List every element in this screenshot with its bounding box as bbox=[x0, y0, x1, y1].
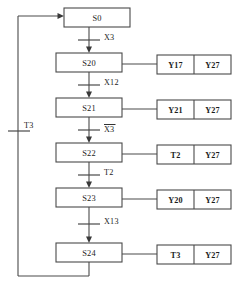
action-cell-s22-2: Y27 bbox=[205, 151, 220, 160]
action-cell-s23-1: Y20 bbox=[168, 196, 183, 205]
action-block-s24[interactable]: T3 Y27 bbox=[157, 245, 231, 264]
action-cell-s22-1: T2 bbox=[171, 151, 181, 160]
transition-label-t2: T2 bbox=[104, 168, 114, 177]
state-label-s24: S24 bbox=[82, 249, 96, 258]
transition-label-return: T3 bbox=[24, 121, 34, 130]
action-block-s21[interactable]: Y21 Y27 bbox=[157, 100, 231, 119]
action-cell-s24-2: Y27 bbox=[205, 251, 220, 260]
state-label-s23: S23 bbox=[82, 194, 96, 203]
state-label-s21: S21 bbox=[82, 104, 96, 113]
transition-label-x13: X13 bbox=[104, 217, 119, 226]
action-cell-s24-1: T3 bbox=[171, 251, 181, 260]
state-box-s0[interactable]: S0 bbox=[64, 8, 130, 27]
arrowhead-s24 bbox=[86, 237, 92, 244]
transition-label-1: X3 bbox=[104, 33, 114, 42]
transition-label-not-x3: X3 bbox=[104, 125, 114, 134]
arrowhead-s20 bbox=[86, 47, 92, 54]
transition-label-x3: X3 bbox=[104, 33, 114, 42]
return-arrowhead bbox=[58, 13, 65, 19]
arrowhead-s21 bbox=[86, 92, 92, 99]
state-box-s24[interactable]: S24 bbox=[56, 243, 122, 262]
transition-label-4: T2 bbox=[104, 168, 114, 177]
arrowhead-s22 bbox=[86, 137, 92, 144]
action-cell-s20-2: Y27 bbox=[205, 61, 220, 70]
action-cell-s21-1: Y21 bbox=[168, 106, 183, 115]
action-block-s23[interactable]: Y20 Y27 bbox=[157, 190, 231, 209]
transition-label-5: X13 bbox=[104, 217, 119, 226]
action-cell-s20-1: Y17 bbox=[168, 61, 183, 70]
sfc-diagram: S0 S20 S21 S22 S23 S24 Y17 Y27 bbox=[0, 0, 237, 287]
state-label-s20: S20 bbox=[82, 59, 96, 68]
action-connectors bbox=[122, 64, 157, 254]
action-block-s22[interactable]: T2 Y27 bbox=[157, 145, 231, 164]
arrowhead-s23 bbox=[86, 182, 92, 189]
state-label-s22: S22 bbox=[82, 149, 96, 158]
state-box-s23[interactable]: S23 bbox=[56, 188, 122, 207]
sfc-canvas: S0 S20 S21 S22 S23 S24 Y17 Y27 bbox=[0, 0, 237, 287]
action-cell-s21-2: Y27 bbox=[205, 106, 220, 115]
state-box-s22[interactable]: S22 bbox=[56, 143, 122, 162]
state-box-s21[interactable]: S21 bbox=[56, 98, 122, 117]
state-box-s20[interactable]: S20 bbox=[56, 53, 122, 72]
action-cell-s23-2: Y27 bbox=[205, 196, 220, 205]
transition-label-3: X3 bbox=[104, 125, 116, 135]
transition-label-t3: T3 bbox=[24, 121, 34, 130]
transition-label-x12: X12 bbox=[104, 78, 119, 87]
action-block-s20[interactable]: Y17 Y27 bbox=[157, 55, 231, 74]
state-label-s0: S0 bbox=[92, 14, 101, 23]
transition-label-2: X12 bbox=[104, 78, 119, 87]
